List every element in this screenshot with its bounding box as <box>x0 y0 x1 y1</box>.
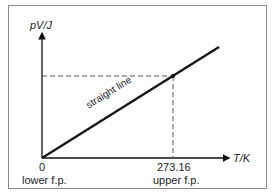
x-axis-label: T/K <box>233 152 250 164</box>
x-tick-0: 0 <box>39 161 45 173</box>
x-tick-1: 273.16 <box>157 161 191 173</box>
upper-fp-point <box>171 74 175 78</box>
y-axis-label: pV/J <box>30 19 52 31</box>
x-tick-1-caption: upper f.p. <box>153 174 199 186</box>
x-tick-0-caption: lower f.p. <box>22 174 67 186</box>
straight-line <box>42 47 219 158</box>
